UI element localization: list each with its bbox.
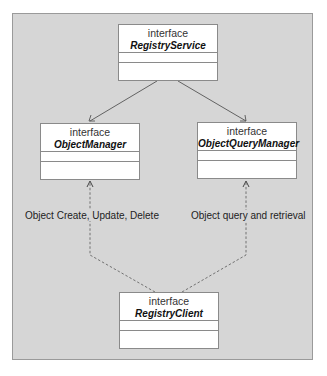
- stereotype-label: interface: [119, 25, 217, 39]
- object-manager-box: interface ObjectManager: [40, 123, 140, 180]
- stereotype-label: interface: [198, 123, 296, 137]
- registry-service-box: interface RegistryService: [118, 24, 218, 81]
- interface-name: ObjectQueryManager: [198, 137, 296, 150]
- interface-name: RegistryService: [119, 39, 217, 52]
- object-query-manager-box: interface ObjectQueryManager: [197, 122, 297, 179]
- interface-name: ObjectManager: [41, 138, 139, 151]
- attributes-section: [120, 321, 218, 331]
- attributes-section: [119, 53, 217, 63]
- edge-label-create-update-delete: Object Create, Update, Delete: [25, 210, 159, 221]
- stereotype-label: interface: [41, 124, 139, 138]
- edge-client-to-querymanager: [182, 182, 246, 292]
- stereotype-label: interface: [120, 293, 218, 307]
- edge-service-to-objectmanager: [90, 81, 157, 121]
- edge-service-to-querymanager: [178, 81, 246, 121]
- attributes-section: [41, 152, 139, 162]
- edge-label-query-retrieval: Object query and retrieval: [191, 210, 306, 221]
- edge-client-to-objectmanager: [90, 182, 155, 292]
- interface-name: RegistryClient: [120, 307, 218, 320]
- attributes-section: [198, 151, 296, 161]
- registry-client-box: interface RegistryClient: [119, 292, 219, 349]
